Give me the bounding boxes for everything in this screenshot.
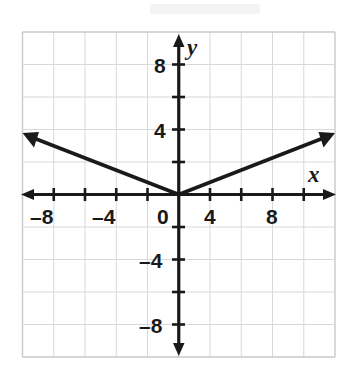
x-axis-name: x: [308, 163, 320, 186]
y-axis-bottom-arrowhead: [173, 343, 185, 356]
x-tick-label-4: 4: [204, 206, 216, 227]
y-tick-label-neg4: –4: [139, 250, 162, 271]
y-tick-label-neg8: –8: [139, 315, 162, 336]
y-tick-label-8: 8: [154, 55, 166, 76]
coordinate-plane-svg: [0, 0, 357, 383]
graph-figure: –8 –4 4 8 8 4 –4 –8 0 x y: [0, 0, 357, 383]
x-axis-right-arrowhead: [323, 189, 336, 200]
x-tick-label-neg4: –4: [92, 206, 115, 227]
x-tick-label-8: 8: [266, 206, 278, 227]
y-axis-top-arrowhead: [173, 34, 185, 47]
x-tick-label-neg8: –8: [30, 206, 53, 227]
y-axis-name: y: [187, 36, 197, 59]
origin-label: 0: [157, 206, 169, 227]
y-tick-label-4: 4: [154, 120, 166, 141]
